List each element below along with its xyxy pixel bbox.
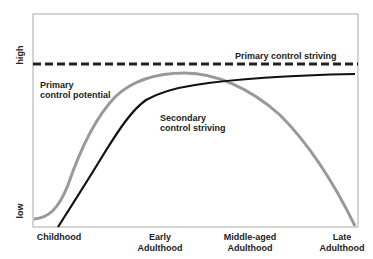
y-label-high: high [15,46,25,65]
x-label-middle-aged-2: Adulthood [228,243,273,253]
lifespan-control-chart: high low Primary control striving Primar… [0,0,373,259]
label-primary-control-potential-2: control potential [40,90,111,100]
x-label-early-adulthood-2: Adulthood [138,243,183,253]
x-label-middle-aged-1: Middle-aged [224,232,277,242]
label-secondary-control-striving-2: control striving [160,123,226,133]
label-secondary-control-striving-1: Secondary [160,113,206,123]
x-label-late-adulthood-2: Adulthood [320,243,365,253]
label-primary-control-striving: Primary control striving [235,51,337,61]
x-label-late-adulthood-1: Late [333,232,352,242]
x-label-childhood: Childhood [37,232,82,242]
label-primary-control-potential-1: Primary [40,80,74,90]
x-label-early-adulthood-1: Early [149,232,171,242]
y-label-low: low [15,203,25,219]
